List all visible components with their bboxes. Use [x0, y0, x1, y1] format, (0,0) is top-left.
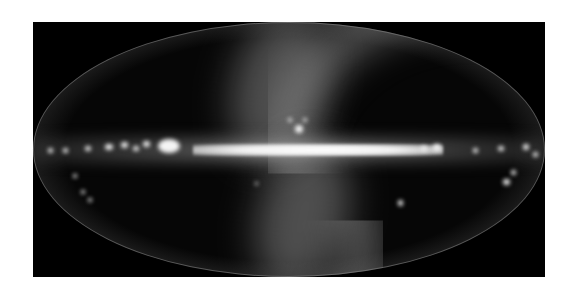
sky-map-frame [33, 22, 545, 277]
bright-clump [421, 146, 427, 151]
rho-ophiuchi-cloud [295, 125, 303, 133]
bright-clump [523, 144, 529, 150]
cygnus-region [158, 139, 180, 153]
bright-clump [503, 179, 510, 185]
bright-clump [473, 148, 478, 153]
bright-clump [433, 144, 441, 151]
bright-clump [63, 148, 68, 153]
bright-clump [85, 146, 91, 151]
lmc [398, 200, 403, 206]
bright-clump [81, 190, 85, 194]
bright-clump [288, 118, 292, 122]
bright-clump [48, 148, 53, 153]
bright-clump [498, 146, 504, 151]
bright-clump [73, 174, 77, 178]
bright-clump [255, 182, 258, 185]
bright-clump [105, 144, 113, 150]
galactic-center [193, 144, 443, 156]
bright-clump [511, 170, 516, 175]
bright-clump [133, 146, 139, 151]
all-sky-ellipse [33, 22, 545, 277]
bright-clump [121, 142, 128, 148]
bright-clump [533, 152, 538, 157]
bright-clump [88, 198, 92, 202]
bright-clump [303, 118, 307, 122]
bright-clump [143, 141, 150, 147]
